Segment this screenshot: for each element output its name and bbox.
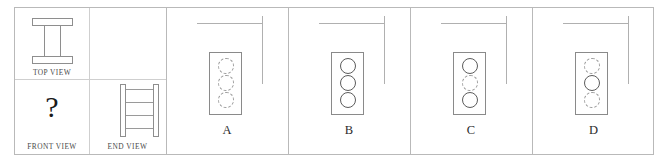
projection-line-horizontal (563, 23, 629, 24)
ladder-rung (125, 115, 154, 116)
circle-top (462, 58, 478, 74)
circle-top (584, 58, 600, 74)
circle-middle (340, 75, 356, 91)
circle-middle (584, 75, 600, 91)
circle-bottom (462, 92, 478, 108)
option-label-c: C (410, 123, 532, 138)
circle-bottom (584, 92, 600, 108)
end-view-drawing (120, 84, 159, 137)
question-vertical-divider (89, 8, 90, 154)
projection-line-horizontal (197, 23, 263, 24)
option-label-d: D (532, 123, 655, 138)
front-view-label: FRONT VIEW (15, 142, 89, 151)
top-view-label: TOP VIEW (15, 68, 89, 77)
projection-line-horizontal (441, 23, 507, 24)
ladder-rung (125, 102, 154, 103)
circle-bottom (340, 92, 356, 108)
projection-line-horizontal (319, 23, 385, 24)
option-c[interactable]: C (410, 8, 532, 154)
candidate-front-view (331, 52, 364, 115)
top-view-drawing (32, 18, 73, 64)
candidate-front-view (453, 52, 486, 115)
question-horizontal-divider (15, 79, 166, 80)
figure-frame: TOP VIEW ? FRONT VIEW END VIEW (14, 7, 654, 155)
ladder-rung (125, 89, 154, 90)
i-beam-flange-bottom (32, 56, 73, 64)
candidate-front-view (209, 52, 242, 115)
i-beam-flange-top (32, 18, 73, 26)
circle-bottom (218, 92, 234, 108)
question-views-block: TOP VIEW ? FRONT VIEW END VIEW (15, 8, 166, 154)
projection-line-vertical (506, 16, 507, 84)
projection-line-vertical (384, 16, 385, 84)
screenshot-root: TOP VIEW ? FRONT VIEW END VIEW (0, 0, 668, 165)
ladder-rail-left (120, 84, 126, 137)
ladder-rail-right (153, 84, 159, 137)
option-b[interactable]: B (288, 8, 410, 154)
circle-middle (218, 75, 234, 91)
projection-line-vertical (628, 16, 629, 84)
option-label-a: A (166, 123, 288, 138)
circle-middle (462, 75, 478, 91)
front-view-question-mark: ? (15, 92, 89, 122)
circle-top (218, 58, 234, 74)
end-view-label: END VIEW (89, 142, 166, 151)
circle-top (340, 58, 356, 74)
option-a[interactable]: A (166, 8, 288, 154)
ladder-rung (125, 128, 154, 129)
projection-line-vertical (262, 16, 263, 84)
candidate-front-view (575, 52, 608, 115)
option-d[interactable]: D (532, 8, 655, 154)
option-label-b: B (288, 123, 410, 138)
